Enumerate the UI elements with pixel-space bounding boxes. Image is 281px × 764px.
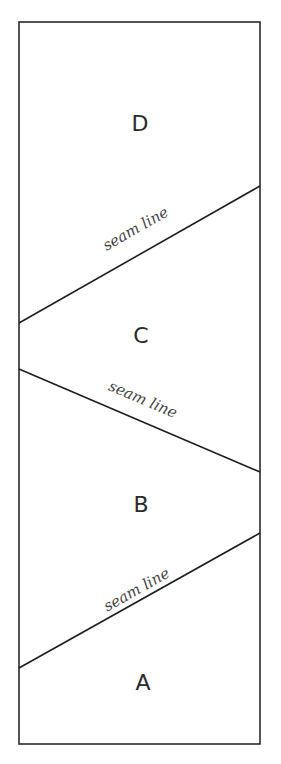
seam-label-c-b: seam line [106,377,180,422]
region-label-b: B [133,492,148,517]
region-label-d: D [132,111,149,136]
seam-line-b-a [19,533,260,668]
seam-label-d-c: seam line [99,203,171,255]
seam-diagram: D C B A seam line seam line seam line [0,0,281,764]
seam-label-b-a: seam line [100,564,172,615]
region-label-a: A [135,670,150,695]
seam-line-c-b [19,369,260,472]
region-label-c: C [133,323,148,348]
seam-line-d-c [19,186,260,323]
